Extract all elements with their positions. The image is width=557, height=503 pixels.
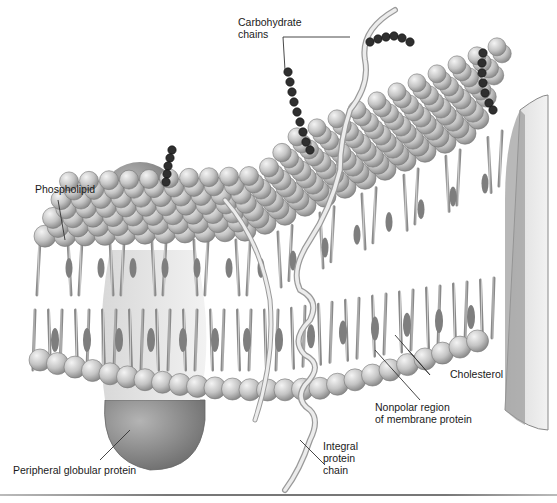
integral-protein-slab [505,95,548,430]
membrane-diagram [0,0,557,503]
label-line: Carbohydrate [238,16,302,28]
peripheral-globular-protein [105,400,205,470]
label-phospholipid: Phospholipid [35,183,95,195]
bottom-divider [0,494,557,496]
upper-phospholipid-heads [34,38,511,247]
lower-phospholipid-heads [29,330,489,401]
label-peripheral-globular-protein: Peripheral globular protein [13,464,136,476]
label-carbohydrate-chains: Carbohydrate chains [238,16,302,40]
label-line: Integral [323,440,358,452]
label-line: Phospholipid [35,183,95,195]
label-integral-protein-chain: Integral protein chain [323,440,358,476]
label-line: of membrane protein [375,413,472,425]
label-line: protein [323,452,358,464]
label-cholesterol: Cholesterol [450,368,503,380]
label-nonpolar-region: Nonpolar region of membrane protein [375,401,472,425]
label-line: chains [238,28,302,40]
label-line: chain [323,464,358,476]
label-line: Peripheral globular protein [13,464,136,476]
label-line: Cholesterol [450,368,503,380]
label-line: Nonpolar region [375,401,472,413]
